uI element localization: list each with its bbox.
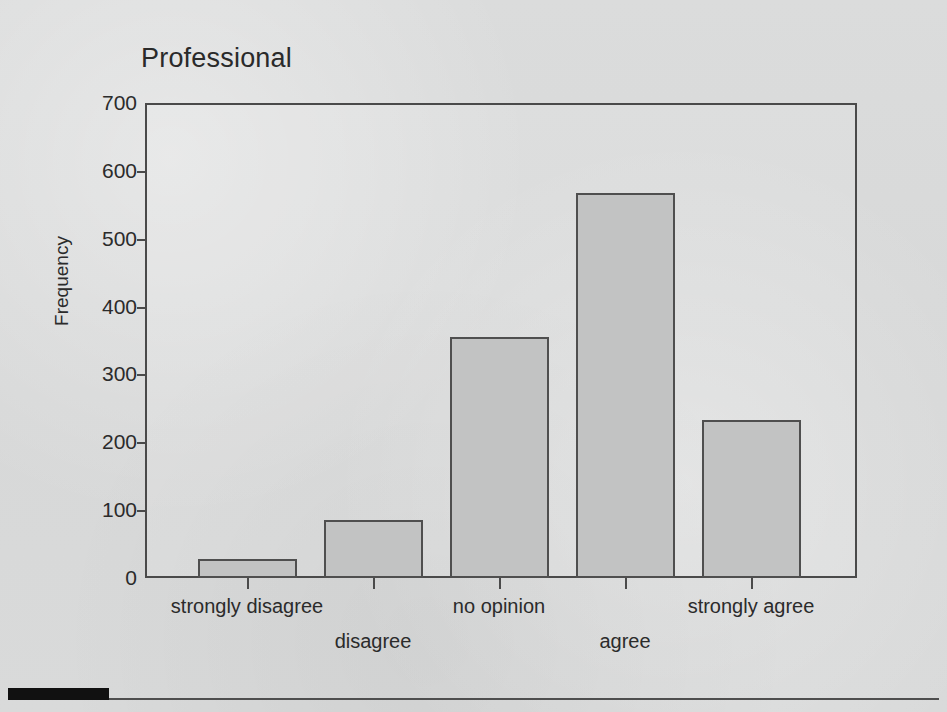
bar-strongly-agree (702, 420, 801, 578)
bar-no-opinion (450, 337, 549, 578)
x-tick-label-agree: agree (599, 630, 650, 653)
chart-title: Professional (141, 43, 292, 74)
x-tick-label-strongly-agree: strongly agree (688, 595, 815, 618)
y-axis-label: Frequency (51, 201, 73, 361)
footer-rule (8, 698, 939, 700)
y-tick-label-500: 500 (102, 227, 137, 251)
y-tick-label-600: 600 (102, 159, 137, 183)
plot-area (145, 103, 857, 578)
footer-black-block (8, 688, 109, 700)
x-tick-mark-2 (373, 578, 375, 589)
y-tick-label-300: 300 (102, 362, 137, 386)
y-tick-label-100: 100 (102, 498, 137, 522)
x-tick-label-no-opinion: no opinion (453, 595, 545, 618)
x-tick-label-strongly-disagree: strongly disagree (171, 595, 323, 618)
x-tick-mark-1 (247, 578, 249, 589)
bar-strongly-disagree (198, 559, 297, 578)
x-tick-mark-3 (499, 578, 501, 589)
bar-disagree (324, 520, 423, 578)
bar-agree (576, 193, 675, 578)
x-tick-mark-4 (625, 578, 627, 589)
y-tick-label-400: 400 (102, 295, 137, 319)
y-tick-label-700: 700 (102, 91, 137, 115)
x-tick-label-disagree: disagree (335, 630, 412, 653)
bar-chart-figure: Professional 700 600 500 400 300 200 100… (0, 0, 947, 712)
x-tick-mark-5 (751, 578, 753, 589)
y-tick-label-200: 200 (102, 430, 137, 454)
y-tick-label-0: 0 (125, 566, 137, 590)
